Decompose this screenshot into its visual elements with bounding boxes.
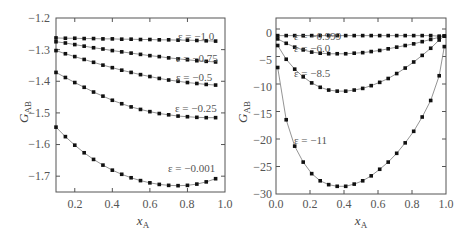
data-point-marker [195, 182, 199, 186]
data-point-marker [284, 57, 288, 61]
right-ytick: −25 [253, 160, 272, 174]
left-ytick: −1.6 [28, 137, 50, 151]
right-xtick: 0.8 [405, 197, 420, 211]
data-point-marker [148, 181, 152, 185]
data-point-marker [92, 60, 96, 64]
data-point-marker [284, 42, 288, 46]
data-point-marker [335, 185, 339, 189]
data-point-marker [64, 41, 68, 45]
data-point-marker [369, 84, 373, 88]
data-point-marker [284, 34, 288, 38]
data-point-marker [443, 45, 447, 49]
data-point-marker [54, 71, 58, 75]
data-point-marker [176, 114, 180, 118]
data-point-marker [378, 81, 382, 85]
data-point-marker [429, 99, 433, 103]
left-ytick: −1.3 [28, 43, 50, 57]
data-point-marker [214, 83, 218, 87]
data-point-marker [301, 160, 305, 164]
right-series [276, 34, 446, 188]
data-point-marker [310, 81, 314, 85]
right-ylabel: GAB [235, 101, 252, 123]
data-point-marker [420, 40, 424, 44]
data-point-marker [157, 55, 161, 59]
right-xtick: 0.2 [303, 197, 318, 211]
data-point-marker [139, 179, 143, 183]
data-point-marker [412, 42, 416, 46]
data-point-marker [101, 37, 105, 41]
data-point-marker [111, 37, 115, 41]
data-point-marker [167, 113, 171, 117]
data-point-marker [284, 118, 288, 122]
data-point-marker [101, 47, 105, 51]
left-ylabel: GAB [16, 101, 33, 123]
data-point-marker [101, 163, 105, 167]
data-point-marker [204, 116, 208, 120]
annotation-eps-11: ε = −11 [294, 134, 327, 146]
data-point-marker [120, 172, 124, 176]
data-point-marker [352, 182, 356, 186]
data-point-marker [54, 40, 58, 44]
data-point-marker [335, 52, 339, 56]
data-point-marker [412, 34, 416, 38]
data-point-marker [64, 36, 68, 40]
data-point-marker [352, 34, 356, 38]
data-point-marker [378, 34, 382, 38]
data-point-marker [378, 167, 382, 171]
data-point-marker [120, 68, 124, 72]
data-point-marker [157, 77, 161, 81]
data-point-marker [111, 168, 115, 172]
data-point-marker [54, 125, 58, 129]
annotation-eps-0.75: ε = −0.75 [176, 52, 218, 64]
right-ytick: 0 [266, 26, 272, 40]
data-point-marker [327, 183, 331, 187]
data-point-marker [420, 54, 424, 58]
data-point-marker [186, 184, 190, 188]
series-line [56, 127, 216, 186]
data-point-marker [195, 116, 199, 120]
right-xtick: 0.0 [269, 197, 284, 211]
annotation-eps-0.25: ε = −0.25 [175, 102, 217, 114]
data-point-marker [361, 51, 365, 55]
left-xtick: 1.0 [218, 197, 233, 211]
annotation-eps-6.0: ε = −6.0 [294, 42, 331, 54]
data-point-marker [378, 49, 382, 53]
data-point-marker [327, 88, 331, 92]
data-point-marker [369, 50, 373, 54]
right-ytick: −10 [253, 80, 272, 94]
data-point-marker [167, 78, 171, 82]
data-point-marker [64, 135, 68, 139]
left-xlabel: xA [136, 213, 150, 230]
data-point-marker [64, 76, 68, 80]
data-point-marker [148, 75, 152, 79]
left-xtick: 0.8 [180, 197, 195, 211]
data-point-marker [73, 43, 77, 47]
data-point-marker [167, 56, 171, 60]
data-point-marker [120, 102, 124, 106]
data-point-marker [73, 81, 77, 85]
data-point-marker [395, 45, 399, 49]
left-ytick: −1.2 [28, 11, 50, 25]
data-point-marker [386, 160, 390, 164]
data-point-marker [420, 115, 424, 119]
data-point-marker [111, 98, 115, 102]
data-point-marker [361, 34, 365, 38]
data-point-marker [73, 36, 77, 40]
annotation-eps-1.0: ε = −1.0 [178, 30, 215, 42]
data-point-marker [395, 152, 399, 156]
left-xtick: 0.6 [143, 197, 158, 211]
data-point-marker [403, 44, 407, 48]
data-point-marker [129, 105, 133, 109]
data-point-marker [412, 130, 416, 134]
data-point-marker [214, 116, 218, 120]
data-point-marker [429, 38, 433, 42]
data-point-marker [276, 44, 280, 48]
data-point-marker [82, 85, 86, 89]
data-point-marker [148, 110, 152, 114]
data-point-marker [101, 63, 105, 67]
data-point-marker [420, 34, 424, 38]
data-point-marker [157, 38, 161, 42]
data-point-marker [403, 34, 407, 38]
data-point-marker [344, 34, 348, 38]
data-point-marker [318, 179, 322, 183]
